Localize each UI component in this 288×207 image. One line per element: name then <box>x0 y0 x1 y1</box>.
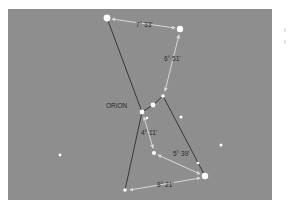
distance-label: 5° 39' <box>173 151 190 158</box>
distance-label: 6° 51' <box>164 56 181 63</box>
star-sword-bottom <box>152 151 156 155</box>
distance-arrow <box>165 35 179 91</box>
star-top-right <box>177 26 183 32</box>
figure-line <box>125 112 142 190</box>
constellation-label: ORION <box>106 103 127 110</box>
distance-label: 4° 11' <box>141 130 157 137</box>
star-top-left <box>104 15 111 22</box>
star-sword-top <box>146 117 149 120</box>
star-belt-left <box>140 110 145 115</box>
stars <box>59 15 223 192</box>
star-field-2 <box>220 144 223 147</box>
star-belt-right <box>161 94 165 98</box>
star-field-3 <box>59 154 62 157</box>
constellation-diagram <box>0 0 288 207</box>
distance-label: 8° 21' <box>157 182 174 189</box>
star-belt-middle <box>151 103 156 108</box>
distance-arrow <box>158 155 200 174</box>
star-bottom-right <box>202 173 208 179</box>
star-knee-right <box>197 162 200 165</box>
figure-line <box>107 18 142 112</box>
star-field-1 <box>180 116 183 119</box>
star-bottom-left <box>123 188 127 192</box>
distance-label: 7° 33' <box>136 22 153 29</box>
